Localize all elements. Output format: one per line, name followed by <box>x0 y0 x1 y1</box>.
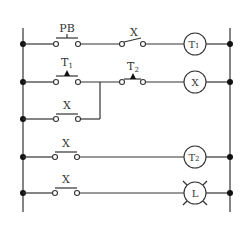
junction-node <box>227 190 233 196</box>
contact-x-branch: X <box>54 99 81 122</box>
rung-2: T1 T2 X <box>20 56 233 93</box>
timer-delay-marker <box>64 70 70 76</box>
contact-label-x: X <box>130 26 138 39</box>
contact-x: X <box>120 26 146 47</box>
rung-5: X L <box>20 173 233 205</box>
seal-in-branch: X <box>20 82 100 122</box>
contact-label-pb: PB <box>59 22 75 35</box>
rung-4: X T2 <box>20 137 233 168</box>
contact-label-t1: T1 <box>61 56 73 70</box>
timed-contact-t1: T1 <box>54 56 81 85</box>
lamp-l: L <box>183 181 207 205</box>
coil-label-x: X <box>191 77 199 88</box>
junction-node <box>227 41 233 47</box>
lamp-ray <box>203 181 207 185</box>
lamp-ray <box>183 181 187 185</box>
contact-x: X <box>53 173 80 196</box>
lamp-ray <box>183 201 187 205</box>
contact-label-x: X <box>62 173 70 186</box>
timed-contact-t2: T2 <box>120 60 146 85</box>
junction-node <box>227 79 233 85</box>
lamp-label-l: L <box>192 188 199 199</box>
junction-node <box>227 154 233 160</box>
coil-x: X <box>184 71 206 93</box>
contact-x: X <box>53 137 80 160</box>
rung-1: PB X T1 <box>20 22 233 55</box>
lamp-ray <box>203 201 207 205</box>
contact-label-t2: T2 <box>127 60 139 74</box>
contact-label-x: X <box>62 137 70 150</box>
ladder-diagram: PB X T1 T1 <box>0 0 249 226</box>
coil-t2: T2 <box>184 146 206 168</box>
coil-t1: T1 <box>184 33 206 55</box>
pushbutton-pb: PB <box>54 22 81 47</box>
contact-label-x: X <box>63 99 71 112</box>
